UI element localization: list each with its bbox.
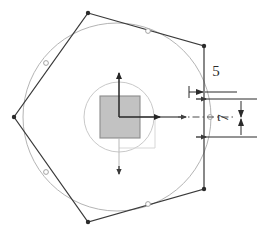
dimension-5-label: 5: [212, 63, 220, 79]
technical-drawing-svg: 5 7: [0, 0, 260, 235]
vertex-top-dot: [86, 11, 90, 15]
marker-lower-left-icon: [44, 170, 49, 175]
dimension-5-group: 5: [189, 63, 237, 98]
vertex-left-dot: [12, 115, 16, 119]
vertex-upper-right-dot: [202, 44, 206, 48]
marker-bottom-right-icon: [146, 202, 151, 207]
vertex-lower-right-dot: [202, 187, 206, 191]
vertex-bottom-dot: [86, 220, 90, 224]
marker-top-right-icon: [146, 29, 151, 34]
marker-upper-left-icon: [44, 61, 49, 66]
dimension-7-label: 7: [215, 114, 231, 122]
drawing-canvas: 5 7: [0, 0, 260, 235]
